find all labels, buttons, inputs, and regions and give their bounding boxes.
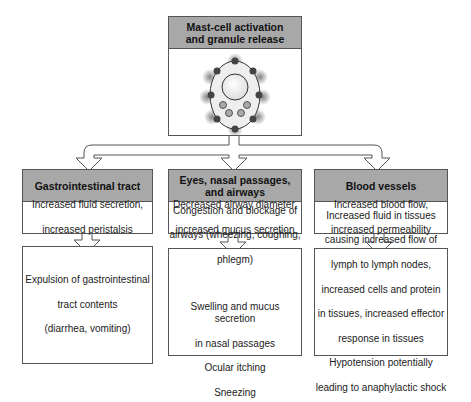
mast-cell-icon <box>169 49 301 135</box>
blood-outcome-line: in tissues, increased effector <box>316 308 447 320</box>
gi-outcome-line: Expulsion of gastrointestinal <box>25 274 150 286</box>
eyes-outcome-line: Congestion and blockage of <box>169 205 301 217</box>
eyes-outcome-box: Congestion and blockage of airways (whee… <box>168 248 302 356</box>
eyes-outcome-spacer <box>169 279 301 289</box>
eyes-outcome-line: airways (wheezing, coughing, <box>169 229 301 241</box>
eyes-outcome-line: Swelling and mucus secretion <box>169 301 301 326</box>
blood-outcome-line: Hypotension potentially <box>316 357 447 369</box>
gi-outcome-line: (diarrhea, vomiting) <box>25 323 150 335</box>
branch-arrow <box>76 135 390 171</box>
gi-effect-text: Increased fluid secretion, increased per… <box>23 202 152 233</box>
eyes-title-line: Eyes, nasal passages, <box>180 174 291 186</box>
gi-outcome-line: tract contents <box>25 299 150 311</box>
mast-cell-title-line: Mast-cell activation <box>186 21 285 33</box>
blood-outcome-line: increased cells and protein <box>316 284 447 296</box>
eyes-outcome-line: Sneezing <box>169 387 301 399</box>
gi-effect-line: increased peristalsis <box>32 224 143 236</box>
blood-outcome-line: causing increased flow of <box>316 234 447 246</box>
mast-cell-header: Mast-cell activation and granule release <box>169 17 301 49</box>
mast-cell-box: Mast-cell activation and granule release <box>168 16 302 136</box>
blood-outcome-line: Increased fluid in tissues <box>316 210 447 222</box>
eyes-outcome-line: phlegm) <box>169 254 301 266</box>
eyes-outcome-line: in nasal passages <box>169 338 301 350</box>
cell-nucleus <box>222 74 248 100</box>
mast-cell-title-line: and granule release <box>186 33 285 45</box>
blood-outcome-box: Increased fluid in tissues causing incre… <box>314 248 448 356</box>
blood-outcome-line: leading to anaphylactic shock <box>316 382 447 394</box>
blood-outcome-line: response in tissues <box>316 333 447 345</box>
eyes-outcome-text: Congestion and blockage of airways (whee… <box>169 249 301 355</box>
gi-effect-box: Gastrointestinal tract Increased fluid s… <box>22 169 153 234</box>
gi-effect-line: Increased fluid secretion, <box>32 199 143 211</box>
eyes-outcome-line: Ocular itching <box>169 362 301 374</box>
gi-outcome-text: Expulsion of gastrointestinal tract cont… <box>23 247 152 363</box>
gi-outcome-box: Expulsion of gastrointestinal tract cont… <box>22 246 153 364</box>
blood-outcome-line: lymph to lymph nodes, <box>316 259 447 271</box>
blood-outcome-text: Increased fluid in tissues causing incre… <box>315 249 447 355</box>
